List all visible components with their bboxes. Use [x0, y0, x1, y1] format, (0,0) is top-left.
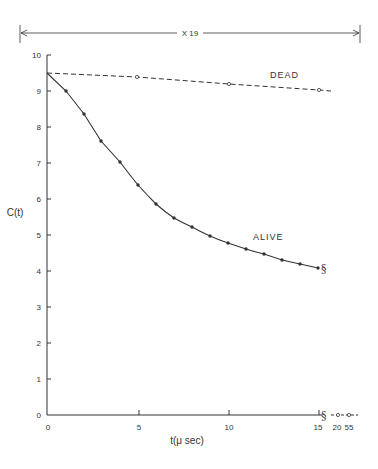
point-after-break — [347, 413, 350, 416]
y-tick-label: 7 — [37, 159, 42, 168]
alive-series-points — [64, 89, 319, 269]
y-tick-label: 5 — [37, 231, 42, 240]
x-axis-title: t(μ sec) — [170, 435, 204, 446]
y-tick-label: 2 — [37, 339, 42, 348]
scale-label: X 19 — [182, 29, 199, 38]
x-tick-label: 15 — [314, 423, 323, 432]
y-tick-label: 3 — [37, 303, 42, 312]
y-tick-label: 6 — [37, 195, 42, 204]
y-tick-label: 9 — [37, 87, 42, 96]
chart: X 19 § 10 9 8 7 6 5 4 3 2 1 0 0 5 10 15 … — [0, 0, 378, 469]
alive-break-icon: § — [321, 262, 327, 275]
x-tick-label: 10 — [225, 423, 234, 432]
axis-break-icon: § — [321, 409, 327, 422]
x-tick-label: 0 — [46, 423, 51, 432]
y-tick-label: 8 — [37, 123, 42, 132]
x-tick-label: 5 — [137, 423, 142, 432]
alive-label: ALIVE — [253, 232, 284, 242]
y-tick-label: 4 — [37, 267, 42, 276]
point-after-break — [336, 413, 339, 416]
y-tick-label: 1 — [37, 375, 42, 384]
dead-label: DEAD — [270, 70, 299, 80]
y-tick-label: 0 — [37, 411, 42, 420]
axes — [47, 55, 358, 415]
y-axis-title: C(t) — [7, 207, 24, 218]
x-tick-label: 55 — [345, 423, 354, 432]
x-tick-label: 20 — [333, 423, 342, 432]
y-tick-label: 10 — [32, 51, 41, 60]
